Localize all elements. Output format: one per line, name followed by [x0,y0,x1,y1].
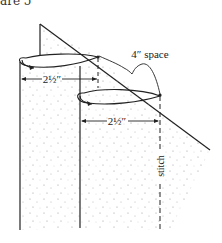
stitch-label: stitch [155,155,166,177]
upper-width-label: 2½″ [43,73,61,85]
left-fabric-panel [20,62,80,230]
right-fabric-panel [80,56,210,230]
pleat-diagram: 2½″ 4″ space 2½″ stitch [0,0,222,243]
space-label: 4″ space [131,48,168,60]
top-fold-flap [40,24,98,56]
lower-width-label: 2½″ [108,115,126,127]
